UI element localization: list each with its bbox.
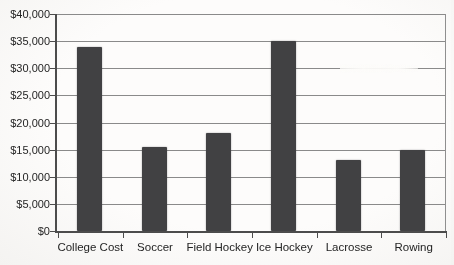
y-tick-mark: [50, 231, 56, 232]
gridline: [57, 204, 445, 205]
gridline: [57, 41, 445, 42]
y-tick-label: $5,000: [4, 198, 50, 210]
y-tick-label: $25,000: [4, 89, 50, 101]
gridline: [57, 150, 445, 151]
x-tick-mark: [58, 233, 59, 238]
y-tick-mark: [50, 123, 56, 124]
bar-rowing: [400, 150, 425, 231]
plot-area: [57, 14, 446, 231]
photo-smudge-artifact: [340, 64, 418, 73]
y-tick-mark: [50, 204, 56, 205]
y-tick-mark: [50, 68, 56, 69]
bar-ice-hockey: [271, 41, 296, 231]
y-tick-mark: [50, 95, 56, 96]
x-tick-mark: [446, 233, 447, 238]
gridline: [57, 123, 445, 124]
x-tick-mark: [187, 233, 188, 238]
y-tick-mark: [50, 177, 56, 178]
bar-field-hockey: [206, 133, 231, 231]
x-tick-mark: [123, 233, 124, 238]
gridline: [57, 177, 445, 178]
y-tick-label: $20,000: [4, 117, 50, 129]
bar-lacrosse: [336, 160, 361, 231]
y-tick-label: $10,000: [4, 171, 50, 183]
x-tick-mark: [252, 233, 253, 238]
y-tick-label: $15,000: [4, 144, 50, 156]
y-tick-label: $40,000: [4, 8, 50, 20]
x-tick-mark: [381, 233, 382, 238]
gridline: [57, 14, 445, 15]
y-tick-label: $30,000: [4, 62, 50, 74]
y-tick-mark: [50, 14, 56, 15]
y-tick-label: $35,000: [4, 35, 50, 47]
y-tick-mark: [50, 150, 56, 151]
bar-college-cost: [77, 47, 102, 231]
x-axis-line: [55, 231, 447, 233]
gridline: [57, 95, 445, 96]
bar-soccer: [142, 147, 167, 231]
y-tick-mark: [50, 41, 56, 42]
x-category-label: Rowing: [374, 240, 454, 254]
x-tick-mark: [317, 233, 318, 238]
y-tick-label: $0: [4, 225, 50, 237]
